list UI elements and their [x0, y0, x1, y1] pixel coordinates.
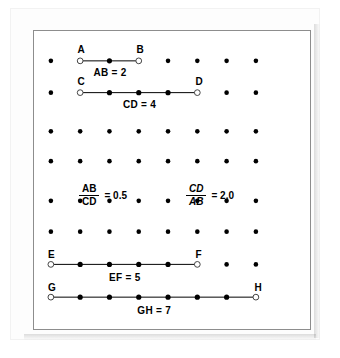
point-label-e: E — [48, 250, 55, 260]
length-label-ef: EF = 5 — [109, 273, 141, 283]
grid-dot — [254, 129, 259, 134]
card-shadow-right — [314, 24, 320, 338]
grid-dot — [224, 59, 229, 64]
grid-dot — [136, 229, 141, 234]
grid-dot — [136, 129, 141, 134]
grid-dot — [107, 229, 112, 234]
segment-endpoint-a — [77, 58, 83, 64]
grid-dot — [254, 199, 259, 204]
grid-dot — [224, 262, 229, 267]
ratio-expression-cd-ab: CD AB = 2.0 — [186, 184, 234, 207]
grid-dot — [195, 59, 200, 64]
ratio-value: = 0.5 — [103, 191, 127, 201]
grid-dot — [224, 90, 229, 95]
grid-dot — [136, 159, 141, 164]
grid-dot — [254, 262, 259, 267]
fraction-denominator: CD — [79, 195, 99, 207]
segment-endpoint-d — [194, 90, 200, 96]
segment-interior-point — [107, 90, 112, 95]
segment-endpoint-c — [77, 90, 83, 96]
length-label-gh: GH = 7 — [137, 306, 171, 316]
point-label-a: A — [78, 45, 85, 55]
segment-interior-point — [107, 295, 112, 300]
grid-dot — [166, 59, 171, 64]
grid-dot — [166, 199, 171, 204]
segment-interior-point — [78, 295, 83, 300]
point-label-h: H — [255, 283, 262, 293]
fraction-cd-ab: CD AB — [186, 184, 206, 207]
segment-endpoint-e — [48, 262, 54, 268]
grid-dot — [49, 129, 54, 134]
page-background: ABAB = 2CDCD = 4EFEF = 5GHGH = 7 AB CD =… — [0, 0, 340, 358]
grid-dot — [49, 199, 54, 204]
segment-interior-point — [224, 295, 229, 300]
segment-interior-point — [78, 262, 83, 267]
point-label-f: F — [196, 250, 202, 260]
grid-dot — [107, 159, 112, 164]
segment-interior-point — [136, 262, 141, 267]
diagram-card: ABAB = 2CDCD = 4EFEF = 5GHGH = 7 AB CD =… — [33, 30, 311, 330]
segment-endpoint-b — [136, 58, 142, 64]
segment-interior-point — [136, 295, 141, 300]
segment-interior-point — [165, 295, 170, 300]
point-label-c: C — [78, 77, 85, 87]
grid-dot — [166, 229, 171, 234]
grid-dot — [224, 159, 229, 164]
segment-endpoint-h — [253, 294, 259, 300]
card-shadow-bottom — [24, 334, 316, 340]
length-label-cd: CD = 4 — [123, 100, 156, 110]
grid-dot — [254, 59, 259, 64]
grid-dot — [195, 159, 200, 164]
grid-dot — [49, 229, 54, 234]
grid-dot — [166, 129, 171, 134]
segment-interior-point — [107, 58, 112, 63]
grid-dot — [78, 159, 83, 164]
grid-dot — [254, 229, 259, 234]
grid-dot — [136, 199, 141, 204]
grid-dot — [224, 229, 229, 234]
fraction-numerator: AB — [79, 184, 99, 195]
segment-interior-point — [165, 262, 170, 267]
segment-endpoint-g — [48, 294, 54, 300]
segment-interior-point — [136, 90, 141, 95]
grid-dot — [254, 159, 259, 164]
dot-grid-diagram — [34, 31, 310, 329]
grid-dot — [195, 229, 200, 234]
grid-dot — [49, 59, 54, 64]
fraction-numerator: CD — [186, 184, 206, 195]
fraction-denominator: AB — [186, 195, 206, 207]
grid-dot — [195, 129, 200, 134]
grid-dot — [224, 129, 229, 134]
ratio-value: = 2.0 — [210, 191, 234, 201]
point-label-g: G — [48, 283, 56, 293]
length-label-ab: AB = 2 — [93, 68, 126, 78]
segment-endpoint-f — [194, 262, 200, 268]
segment-interior-point — [195, 295, 200, 300]
grid-dot — [166, 159, 171, 164]
grid-dot — [254, 90, 259, 95]
ratio-expression-ab-cd: AB CD = 0.5 — [79, 184, 127, 207]
segment-interior-point — [165, 90, 170, 95]
grid-dot — [49, 90, 54, 95]
grid-dot — [107, 129, 112, 134]
segment-interior-point — [107, 262, 112, 267]
grid-dot — [49, 159, 54, 164]
point-label-d: D — [196, 77, 203, 87]
point-label-b: B — [137, 45, 144, 55]
grid-dot — [78, 129, 83, 134]
grid-dot — [78, 229, 83, 234]
fraction-ab-cd: AB CD — [79, 184, 99, 207]
